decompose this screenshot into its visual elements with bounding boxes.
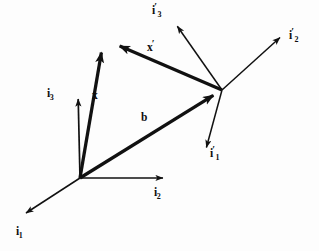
vector-canvas xyxy=(0,0,319,251)
label-i3: i3 xyxy=(47,88,54,100)
label-i2-prime: i′2 xyxy=(289,30,299,42)
vector-b xyxy=(80,95,213,178)
label-i1-prime: i′1 xyxy=(210,148,220,160)
vector-i3 xyxy=(78,99,80,178)
vector-x xyxy=(80,53,101,179)
label-i3-prime: i′3 xyxy=(152,5,162,17)
vector-i1 xyxy=(26,178,80,213)
label-i2: i2 xyxy=(154,187,161,199)
label-b: b xyxy=(141,112,147,124)
label-x-prime: x′ xyxy=(147,42,156,54)
label-i1: i1 xyxy=(16,226,23,238)
vector-diagram: i1 i2 i3 i′1 i′2 i′3 x x′ b xyxy=(0,0,319,251)
vector-i2-prime xyxy=(222,38,280,91)
label-x: x xyxy=(92,90,98,102)
